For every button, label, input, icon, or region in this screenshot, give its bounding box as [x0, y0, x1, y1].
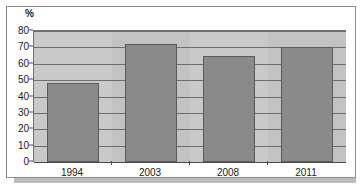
bar-2008 [203, 56, 255, 162]
gridline [34, 31, 346, 32]
x-tick-label-2008: 2008 [217, 167, 239, 178]
y-tick-label: 70 [18, 41, 29, 52]
y-tick-mark [29, 161, 33, 162]
y-tick-mark [29, 46, 33, 47]
bar-1994 [47, 83, 99, 162]
bar-chart: % 01020304050607080 1994200320082011 [0, 0, 363, 191]
y-tick-mark [29, 111, 33, 112]
y-tick-label: 50 [18, 74, 29, 85]
y-tick-label: 60 [18, 57, 29, 68]
chart-screenshot: % 01020304050607080 1994200320082011 [0, 0, 363, 191]
y-tick-mark [29, 95, 33, 96]
y-tick-label: 10 [18, 139, 29, 150]
x-tick-label-2011: 2011 [295, 167, 317, 178]
plot-area [33, 30, 346, 162]
x-tick-label-2003: 2003 [139, 167, 161, 178]
y-tick-label: 40 [18, 90, 29, 101]
axis-baseline [34, 162, 346, 163]
bar-2003 [125, 44, 177, 162]
x-tick-mark [189, 161, 190, 165]
y-tick-label: 30 [18, 106, 29, 117]
x-tick-mark [267, 161, 268, 165]
y-tick-label: 80 [18, 25, 29, 36]
y-tick-mark [29, 128, 33, 129]
y-tick-mark [29, 79, 33, 80]
y-axis-unit-label: % [25, 8, 34, 19]
y-tick-mark [29, 30, 33, 31]
y-tick-label: 20 [18, 123, 29, 134]
y-tick-mark [29, 62, 33, 63]
x-tick-label-1994: 1994 [61, 167, 83, 178]
bar-2011 [281, 47, 333, 162]
y-tick-mark [29, 144, 33, 145]
x-tick-mark [111, 161, 112, 165]
